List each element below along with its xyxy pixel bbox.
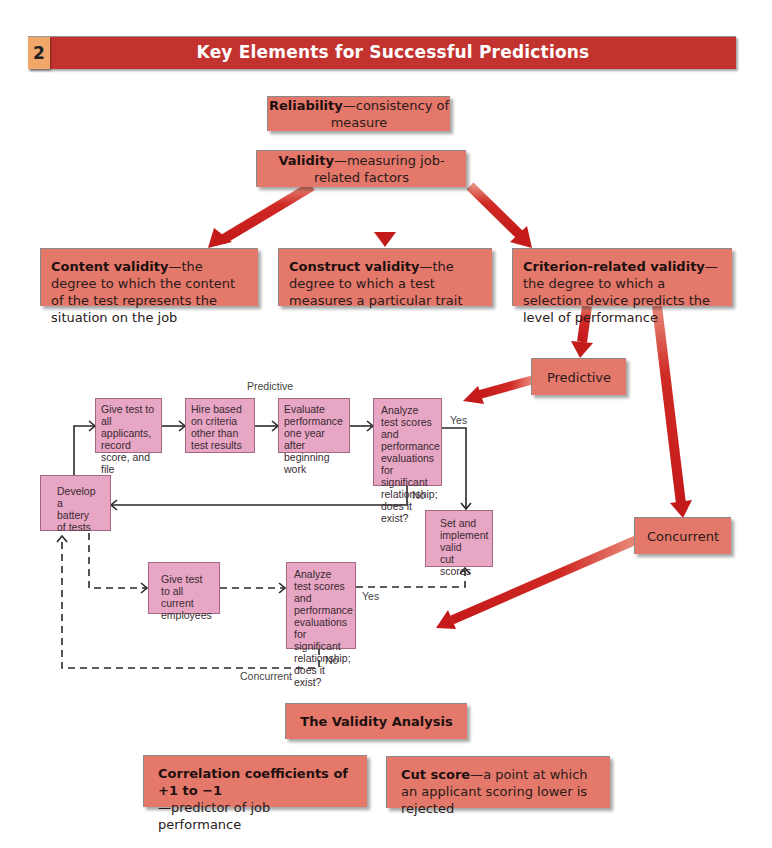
validity-analysis-title: The Validity Analysis — [285, 703, 467, 739]
flow-box-analyze-predictive: Analyze test scores and performance eval… — [373, 398, 442, 486]
cut-score-term: Cut score — [401, 767, 470, 782]
flow-box-set-cut-scores: Set and implement valid cut scores — [425, 510, 493, 567]
cut-score-box: Cut score—a point at which an applicant … — [386, 756, 610, 808]
validity-analysis-label: The Validity Analysis — [300, 713, 452, 730]
flow-box-hire: Hire based on criteria other than test r… — [185, 398, 255, 453]
flow-box-give-test-current: Give test to all current employees — [148, 562, 220, 614]
correlation-term: Correlation coefficients of +1 to −1 — [158, 766, 348, 798]
correlation-box: Correlation coefficients of +1 to −1 —pr… — [143, 755, 367, 807]
flow-label-yes-bottom: Yes — [362, 590, 379, 602]
section-number: 2 — [28, 36, 50, 69]
flow-label-predictive: Predictive — [247, 380, 293, 392]
flow-box-develop-tests: Develop a battery of tests — [40, 475, 111, 531]
flow-label-yes-top: Yes — [450, 414, 467, 426]
flow-box-evaluate: Evaluate performance one year after begi… — [278, 398, 350, 453]
flow-label-concurrent: Concurrent — [240, 670, 292, 682]
flow-box-give-test-applicants: Give test to all applicants, record scor… — [95, 398, 162, 453]
page-title: Key Elements for Successful Predictions — [50, 36, 736, 68]
connector-develop-to-give — [74, 426, 94, 475]
flow-box-analyze-concurrent: Analyze test scores and performance eval… — [286, 562, 356, 649]
